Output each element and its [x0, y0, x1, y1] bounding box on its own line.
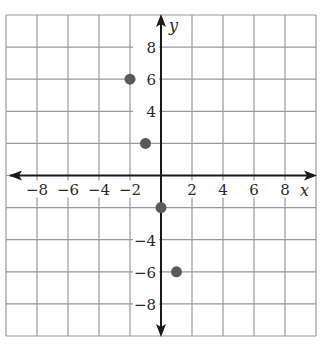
y-axis-label: y	[168, 16, 179, 35]
x-tick-label: −2	[119, 181, 141, 199]
coordinate-plane: −8−6−4−22468864−4−6−8 x y	[0, 0, 331, 352]
x-tick-label: 4	[218, 181, 228, 199]
axes	[9, 14, 317, 337]
x-tick-label: −4	[88, 181, 110, 199]
y-tick-label: −8	[134, 296, 156, 314]
data-point	[171, 266, 182, 277]
data-point	[125, 74, 136, 85]
x-tick-label: 8	[280, 181, 290, 199]
x-axis-label: x	[300, 181, 309, 200]
y-tick-label: 4	[146, 103, 156, 121]
x-tick-label: 2	[187, 181, 197, 199]
x-tick-label: 6	[249, 181, 259, 199]
y-tick-label: −4	[134, 232, 156, 250]
x-tick-label: −6	[57, 181, 79, 199]
y-tick-label: 6	[146, 71, 156, 89]
y-tick-label: −6	[134, 264, 156, 282]
data-point	[156, 202, 167, 213]
x-tick-label: −8	[26, 181, 48, 199]
data-point	[140, 138, 151, 149]
y-tick-label: 8	[146, 39, 156, 57]
